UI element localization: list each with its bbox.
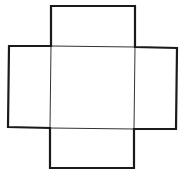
box-net-diagram xyxy=(0,0,185,179)
background xyxy=(0,0,185,179)
